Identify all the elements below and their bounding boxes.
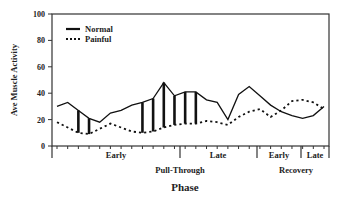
line-chart: 020406080100Ave Muscle ActivityEarlyLate… [0, 0, 349, 199]
chart-container: 020406080100Ave Muscle ActivityEarlyLate… [0, 0, 349, 199]
subphase-early-recovery: Early [269, 150, 290, 160]
legend-painful-label: Painful [85, 34, 112, 44]
subphase-early-pullthrough: Early [106, 150, 127, 160]
subphase-late-pullthrough: Late [210, 150, 227, 160]
phase-pullthrough: Pull-Through [155, 165, 205, 175]
y-tick-label: 20 [37, 116, 45, 125]
y-axis-label: Ave Muscle Activity [9, 43, 19, 116]
y-tick-label: 40 [37, 89, 45, 98]
subphase-late-recovery: Late [307, 150, 324, 160]
x-axis-label: Phase [171, 181, 199, 193]
series-painful [57, 100, 324, 134]
legend-normal-label: Normal [85, 24, 113, 34]
series-normal [57, 83, 324, 123]
phase-recovery: Recovery [279, 165, 314, 175]
y-tick-label: 0 [41, 142, 45, 151]
y-tick-label: 60 [37, 63, 45, 72]
y-tick-label: 80 [37, 36, 45, 45]
y-tick-label: 100 [33, 10, 45, 19]
